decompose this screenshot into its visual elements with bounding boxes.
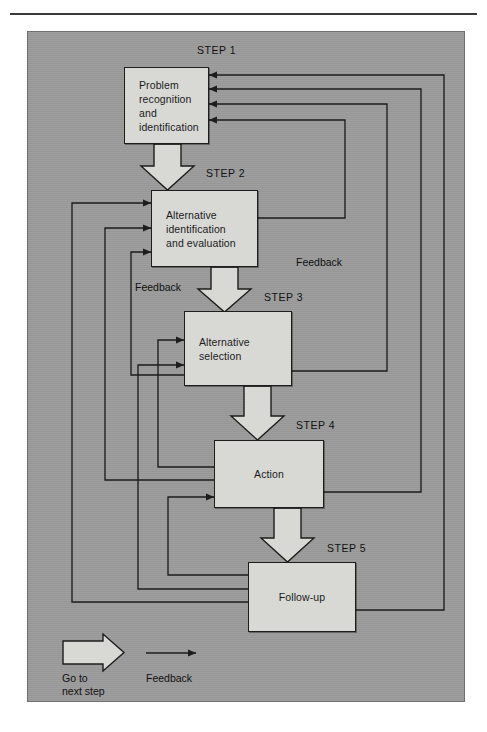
step-label-4: STEP 4	[296, 419, 335, 431]
step2-text: Alternative identification and evaluatio…	[152, 208, 242, 250]
block-arrow-step1-step2	[141, 144, 194, 190]
step1-text: Problem recognition and identification	[125, 78, 208, 134]
feedback-step5-to-step4	[168, 497, 248, 575]
block-arrow-step4-step5	[261, 508, 314, 562]
process-box-step5[interactable]: Follow-up	[248, 562, 356, 632]
step4-text: Action	[215, 467, 323, 481]
legend-block-arrow-label: Go to next step	[62, 672, 105, 698]
step-label-5: STEP 5	[327, 542, 366, 554]
step3-text: Alternative selection	[185, 335, 256, 363]
feedback-step3-to-step2	[131, 252, 188, 375]
figure-root: Problem recognition and identification A…	[0, 0, 487, 732]
block-arrow-step2-step3	[198, 267, 251, 312]
feedback-label-left: Feedback	[135, 281, 181, 293]
feedback-label-right: Feedback	[296, 256, 342, 268]
step-label-1: STEP 1	[197, 44, 236, 56]
step-label-3: STEP 3	[264, 291, 303, 303]
step5-text: Follow-up	[249, 590, 355, 604]
legend-block-arrow-icon	[63, 634, 124, 671]
process-box-step3[interactable]: Alternative selection	[184, 311, 292, 386]
step-label-2: STEP 2	[206, 167, 245, 179]
block-arrow-step3-step4	[231, 386, 284, 440]
legend-line-arrow-label: Feedback	[146, 672, 192, 685]
process-box-step1[interactable]: Problem recognition and identification	[124, 67, 209, 144]
process-box-step2[interactable]: Alternative identification and evaluatio…	[151, 190, 258, 267]
process-box-step4[interactable]: Action	[214, 440, 324, 508]
